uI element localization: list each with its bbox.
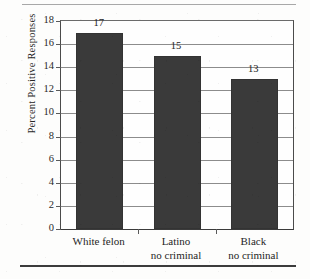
y-tick-mark (56, 113, 61, 114)
y-tick-mark (56, 229, 61, 230)
x-axis-category-line: Latino (162, 235, 191, 247)
x-axis-category-line: no criminal (203, 249, 303, 263)
y-tick-mark (56, 90, 61, 91)
bar-value-label: 17 (69, 18, 129, 29)
bar-value-label: 15 (146, 41, 206, 52)
bar-value-label: 13 (223, 64, 283, 75)
x-tick-mark (138, 229, 139, 234)
y-tick-label: 18 (28, 15, 54, 26)
y-tick-label: 16 (28, 38, 54, 49)
page-rule-top (22, 4, 296, 5)
x-tick-mark (216, 229, 217, 234)
y-tick-label: 6 (28, 154, 54, 165)
y-tick-label: 0 (28, 223, 54, 234)
bar (231, 79, 278, 229)
y-tick-label: 4 (28, 177, 54, 188)
x-axis-category-line: White felon (73, 235, 125, 247)
y-tick-label: 2 (28, 200, 54, 211)
bar (154, 56, 201, 229)
y-tick-mark (56, 160, 61, 161)
page-rule-bottom (20, 265, 296, 267)
y-tick-label: 8 (28, 131, 54, 142)
y-tick-mark (56, 21, 61, 22)
plot-area (60, 20, 294, 230)
y-tick-label: 10 (28, 107, 54, 118)
y-tick-mark (56, 183, 61, 184)
bar (76, 33, 123, 229)
x-axis-category-line: Black (240, 235, 266, 247)
y-tick-label: 12 (28, 84, 54, 95)
y-tick-mark (56, 137, 61, 138)
y-tick-mark (56, 67, 61, 68)
x-axis-category-label: Blackno criminal (203, 235, 303, 262)
y-tick-mark (56, 44, 61, 45)
y-tick-label: 14 (28, 61, 54, 72)
figure-page: Percent Positive Responses 1816141210864… (0, 0, 310, 279)
bar-chart-figure: Percent Positive Responses 1816141210864… (0, 10, 310, 260)
y-tick-mark (56, 206, 61, 207)
